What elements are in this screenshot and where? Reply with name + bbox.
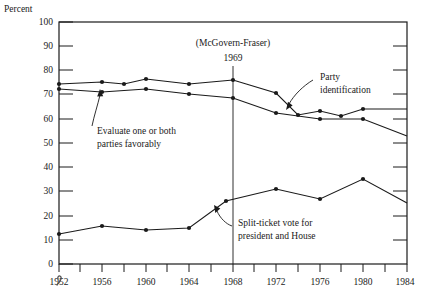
y-axis-ticks xyxy=(59,22,73,264)
annotation-mcgovern-fraser-line2: 1969 xyxy=(224,53,243,63)
y-tick-label: 50 xyxy=(44,138,54,148)
annotation-mcgovern-fraser-line1: (McGovern-Fraser) xyxy=(196,38,270,49)
x-tick-label: 1964 xyxy=(180,277,199,287)
annotation-evaluate-parties-line2: parties favorably xyxy=(97,139,161,149)
annotation-split-ticket-line2: president and House xyxy=(238,231,316,241)
y-axis-tick-labels: 100 90 80 70 60 50 40 30 20 10 0 xyxy=(39,17,54,269)
x-tick-label: 1972 xyxy=(267,277,286,287)
annotation-evaluate-parties-line1: Evaluate one or both xyxy=(97,126,176,136)
x-tick-label: 1968 xyxy=(224,277,243,287)
annotation-split-ticket-line1: Split-ticket vote for xyxy=(238,218,313,228)
y-tick-label: 0 xyxy=(48,259,53,269)
y-tick-label: 60 xyxy=(44,114,54,124)
y-tick-label: 40 xyxy=(44,162,54,172)
x-tick-label: 1980 xyxy=(354,277,373,287)
x-tick-label: 1960 xyxy=(137,277,156,287)
chart-figure: Percent 100 90 80 70 60 50 40 30 xyxy=(0,0,424,290)
series-markers xyxy=(57,87,365,121)
y-tick-label: 20 xyxy=(44,211,54,221)
series-split-ticket xyxy=(57,177,407,236)
annotation-evaluate-parties: Evaluate one or both parties favorably xyxy=(92,89,176,149)
x-axis-ticks xyxy=(59,264,407,272)
annotation-party-identification: Party identification xyxy=(286,72,371,110)
y-tick-label: 10 xyxy=(44,235,54,245)
x-tick-label: 1956 xyxy=(93,277,112,287)
y-tick-label: 30 xyxy=(44,186,54,196)
x-tick-label: 1984 xyxy=(396,277,415,287)
x-axis-tick-labels: 1952 1956 1960 1964 1968 1972 1976 1980 … xyxy=(50,277,415,287)
series-markers xyxy=(57,177,365,236)
line-chart-svg: Percent 100 90 80 70 60 50 40 30 xyxy=(0,0,424,290)
x-tick-label: 1976 xyxy=(311,277,330,287)
y-tick-label: 70 xyxy=(44,89,54,99)
y-tick-label: 90 xyxy=(44,41,54,51)
annotation-party-identification-line2: identification xyxy=(320,85,371,95)
y-tick-label: 100 xyxy=(39,17,54,27)
series-markers xyxy=(57,77,365,118)
y-axis-title: Percent xyxy=(4,4,33,14)
annotation-party-identification-line1: Party xyxy=(320,72,340,82)
y-tick-label: 80 xyxy=(44,65,54,75)
y-axis-ticks-right xyxy=(393,46,407,240)
annotation-split-ticket: Split-ticket vote for president and Hous… xyxy=(214,205,316,241)
